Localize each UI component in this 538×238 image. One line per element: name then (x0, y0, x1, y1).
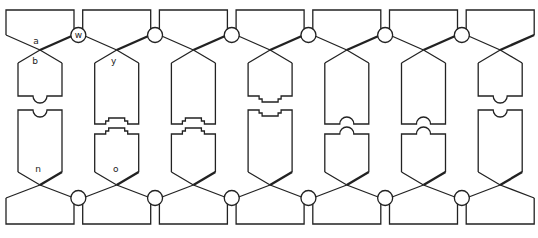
label-top-1: a (33, 36, 39, 46)
label-lower-1: n (35, 164, 41, 174)
bottom-cross-line-a (171, 172, 227, 198)
top-circle-node-2 (148, 28, 163, 43)
upper-piece (402, 63, 446, 124)
bottom-circle-node-1 (71, 191, 86, 206)
chain-diagram: abnyow (0, 0, 538, 238)
lower-piece (402, 127, 446, 172)
top-cross-line-b (193, 35, 227, 50)
bottom-cross-line-c (313, 185, 347, 198)
bottom-pentagon (466, 198, 534, 224)
bottom-circle-node-6 (454, 191, 469, 206)
upper-piece (325, 63, 369, 124)
label-upper-1: b (32, 56, 38, 66)
unit-column-7 (466, 10, 534, 224)
bottom-cross-line-a (95, 172, 151, 198)
top-cross-line-c (248, 50, 270, 63)
top-pentagon (313, 10, 381, 35)
top-cross-line-b (270, 35, 304, 50)
bottom-cross-line-a (248, 172, 304, 198)
top-cross-line-b (40, 35, 74, 50)
bottom-cross-line-b (193, 172, 215, 185)
top-cross-line-a (159, 35, 215, 63)
unit-column-5 (313, 10, 381, 224)
lower-piece (18, 110, 62, 172)
unit-column-4 (236, 10, 304, 224)
top-cross-line-b (117, 35, 151, 50)
bottom-cross-line-c (6, 185, 40, 198)
bottom-cross-line-b (270, 172, 292, 185)
upper-piece (18, 63, 62, 103)
unit-column-1 (6, 10, 74, 224)
bottom-circle-node-4 (301, 191, 316, 206)
top-pentagon (466, 10, 534, 35)
bottom-cross-line-b (500, 172, 522, 185)
bottom-circle-node-3 (224, 191, 239, 206)
top-pentagon (6, 10, 74, 35)
upper-piece (171, 63, 215, 124)
lower-piece (171, 128, 215, 172)
label-upper-2: y (111, 56, 117, 66)
bottom-cross-line-c (83, 185, 117, 198)
bottom-cross-line-a (402, 172, 458, 198)
lower-piece (478, 110, 522, 172)
bottom-pentagon (83, 198, 151, 224)
bottom-circle-node-5 (378, 191, 393, 206)
bottom-pentagon (159, 198, 227, 224)
top-cross-line-b (347, 35, 381, 50)
unit-column-3 (159, 10, 227, 224)
upper-piece (95, 63, 139, 124)
bottom-cross-line-a (18, 172, 74, 198)
bottom-cross-line-b (117, 172, 139, 185)
bottom-pentagon (6, 198, 74, 224)
top-circle-node-4 (301, 28, 316, 43)
top-circle-node-6 (454, 28, 469, 43)
top-circle-node-label-1: w (75, 30, 82, 40)
top-cross-line-c (402, 50, 424, 63)
diagram-canvas: abnyow (0, 0, 538, 238)
top-pentagon (83, 10, 151, 35)
upper-piece (248, 63, 292, 102)
bottom-cross-line-c (466, 185, 500, 198)
top-cross-line-a (313, 35, 369, 63)
bottom-circle-node-2 (148, 191, 163, 206)
top-cross-line-a (390, 35, 446, 63)
bottom-pentagon (313, 198, 381, 224)
bottom-cross-line-a (325, 172, 381, 198)
bottom-cross-line-b (347, 172, 369, 185)
bottom-cross-line-b (40, 172, 62, 185)
upper-piece (478, 63, 522, 103)
top-pentagon (159, 10, 227, 35)
top-cross-line-c (171, 50, 193, 63)
top-cross-line-c (478, 50, 500, 63)
top-cross-line-a (466, 35, 522, 63)
bottom-pentagon (390, 198, 458, 224)
top-cross-line-a (236, 35, 292, 63)
unit-column-2 (83, 10, 151, 224)
top-circle-node-3 (224, 28, 239, 43)
top-circle-node-5 (378, 28, 393, 43)
bottom-cross-line-a (478, 172, 534, 198)
top-cross-line-c (325, 50, 347, 63)
bottom-pentagon (236, 198, 304, 224)
top-cross-line-b (500, 35, 534, 50)
bottom-cross-line-c (236, 185, 270, 198)
top-pentagon (236, 10, 304, 35)
bottom-cross-line-c (159, 185, 193, 198)
top-pentagon (390, 10, 458, 35)
top-cross-line-b (424, 35, 458, 50)
lower-piece (248, 110, 292, 172)
lower-piece (325, 127, 369, 172)
label-lower-2: o (113, 164, 119, 174)
bottom-cross-line-c (390, 185, 424, 198)
bottom-cross-line-b (424, 172, 446, 185)
unit-column-6 (390, 10, 458, 224)
